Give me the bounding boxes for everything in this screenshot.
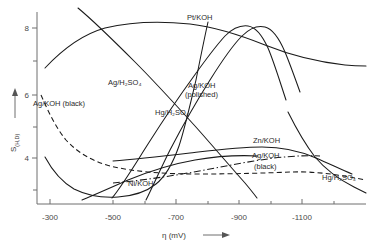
label-ag-koh-black-right: Ag/KOH: [252, 151, 280, 160]
series-curves: [41, 8, 366, 200]
series-annotations: Pt/KOH Ag/H₂SO₄ Ag/KOH (black) Ag/KOH (p…: [33, 13, 356, 188]
x-tick-labels: -300 -500 -700 -900 -1100: [42, 213, 312, 222]
label-hg-h2so4-right: Hg/H₂SO₄: [322, 173, 356, 182]
y-tick-label-8: 8: [25, 24, 30, 33]
y-tick-label-6: 6: [25, 91, 30, 100]
curve-ni-koh-lower-arc: [82, 156, 258, 200]
x-axis-title-group: η (mV): [162, 231, 230, 240]
curve-pt-koh: [45, 22, 366, 68]
curve-ag-h2so4: [78, 8, 257, 198]
x-axis-arrow-head: [222, 232, 230, 238]
chart-svg: 8 6 4 -300 -500 -700 -900 -1100 S(H,D) η…: [0, 0, 368, 242]
label-ag-koh-black-left: Ag/KOH (black): [33, 99, 86, 108]
y-axis-title-group: S(H,D): [9, 88, 20, 152]
label-zn-koh: Zn/KOH: [253, 136, 280, 145]
curve-ag-koh-polished: [112, 26, 286, 198]
x-tick-label-300: -300: [42, 213, 59, 222]
x-tick-label-700: -700: [168, 213, 185, 222]
y-tick-label-4: 4: [25, 154, 30, 163]
y-axis-arrow-head: [12, 88, 18, 96]
label-ni-koh: Ni/KOH: [128, 179, 153, 188]
x-tick-label-1100: -1100: [292, 213, 312, 222]
y-tick-labels: 8 6 4: [25, 24, 30, 163]
curve-ag-koh-black: [41, 95, 366, 180]
label-ag-h2so4: Ag/H₂SO₄: [108, 78, 141, 87]
axes-group: [37, 12, 366, 204]
x-tick-marks: [50, 199, 334, 204]
label-pt-koh: Pt/KOH: [187, 13, 212, 22]
label-ag-koh-black-right-2: (black): [254, 162, 277, 171]
label-hg-h2so4-mid: Hg/H₂SO₄: [155, 108, 189, 117]
x-tick-label-900: -900: [231, 213, 248, 222]
chart-figure: 8 6 4 -300 -500 -700 -900 -1100 S(H,D) η…: [0, 0, 368, 242]
curve-zn-koh-upper: [113, 147, 352, 174]
y-axis-title: S(H,D): [9, 134, 20, 152]
label-ag-koh-polished-2: (polished): [185, 90, 218, 99]
x-axis-title: η (mV): [162, 231, 186, 240]
x-tick-label-500: -500: [105, 213, 122, 222]
y-tick-marks: [32, 28, 37, 190]
label-ag-koh-polished: Ag/KOH: [188, 81, 216, 90]
